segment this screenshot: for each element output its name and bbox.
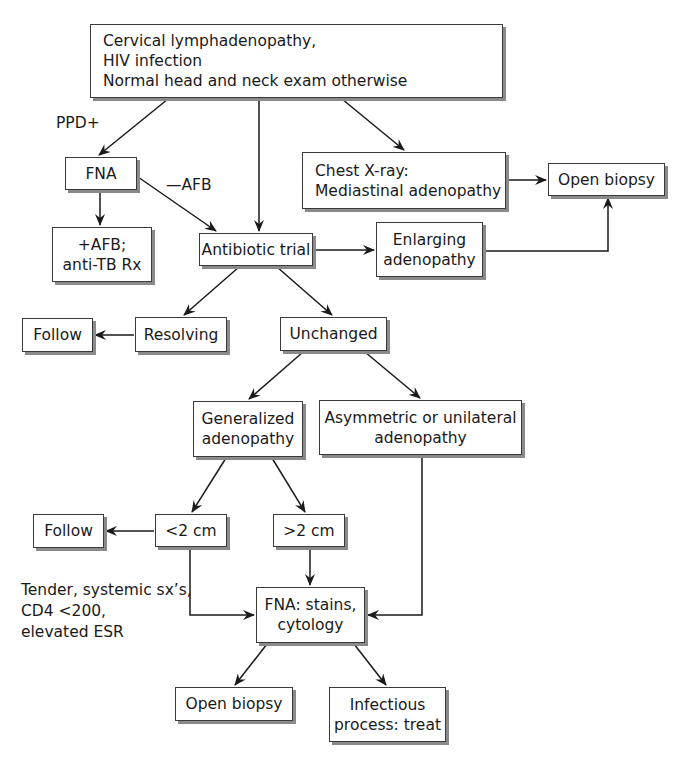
node-unchanged-label: Unchanged — [289, 324, 377, 344]
node-start-line-3: Normal head and neck exam otherwise — [103, 71, 407, 91]
edge-label-ppd-positive: PPD+ — [56, 113, 100, 134]
flowchart-canvas: Cervical lymphadenopathy, HIV infection … — [0, 0, 692, 762]
node-afb-positive-line-1: +AFB; — [63, 235, 142, 255]
node-antibiotic-trial-label: Antibiotic trial — [202, 240, 311, 260]
edge-generalized-to-gt2cm — [272, 458, 305, 512]
edge-fna-stains-to-infectious — [354, 644, 386, 685]
node-fna-stains-line-1: FNA: stains, — [265, 595, 357, 615]
node-less-than-2cm: <2 cm — [155, 514, 227, 547]
node-antibiotic-trial: Antibiotic trial — [199, 233, 313, 266]
node-chest-xray-line-1: Chest X-ray: — [315, 161, 501, 181]
node-generalized-line-1: Generalized — [202, 409, 295, 429]
edge-label-afb-negative: —AFB — [166, 175, 212, 196]
node-open-biopsy-bottom: Open biopsy — [175, 687, 293, 721]
flowchart-edges — [0, 0, 692, 762]
node-asymmetric-line-2: adenopathy — [324, 428, 516, 448]
edge-fna-stains-to-open-biopsy — [235, 644, 267, 685]
node-asymmetric-line-1: Asymmetric or unilateral — [324, 408, 516, 428]
node-generalized-line-2: adenopathy — [202, 429, 295, 449]
node-afb-positive-line-2: anti-TB Rx — [63, 255, 142, 275]
node-asymmetric-adenopathy: Asymmetric or unilateral adenopathy — [319, 400, 522, 455]
node-enlarging-adenopathy: Enlarging adenopathy — [376, 222, 483, 277]
node-infectious-line-2: process: treat — [334, 715, 441, 735]
criteria-line-1: Tender, systemic sx’s, — [21, 580, 192, 601]
node-enlarging-line-2: adenopathy — [383, 250, 476, 270]
edge-unchanged-to-asymmetric — [365, 352, 420, 398]
node-open-biopsy-top-label: Open biopsy — [558, 170, 655, 190]
edge-generalized-to-lt2cm — [192, 458, 226, 512]
edge-asymmetric-to-fna-stains — [368, 456, 422, 615]
node-lt2cm-label: <2 cm — [165, 521, 216, 541]
node-infectious-process: Infectious process: treat — [329, 687, 446, 742]
node-resolving-label: Resolving — [144, 325, 219, 345]
node-start-line-1: Cervical lymphadenopathy, — [103, 31, 407, 51]
node-infectious-line-1: Infectious — [334, 695, 441, 715]
edge-antibiotic-to-unchanged — [277, 267, 332, 315]
node-start: Cervical lymphadenopathy, HIV infection … — [90, 24, 503, 98]
node-fna: FNA — [65, 157, 137, 190]
criteria-line-3: elevated ESR — [21, 622, 192, 643]
node-start-line-2: HIV infection — [103, 51, 407, 71]
edge-unchanged-to-generalized — [249, 352, 303, 399]
node-gt2cm-label: >2 cm — [283, 521, 334, 541]
node-generalized-adenopathy: Generalized adenopathy — [193, 401, 303, 457]
edge-antibiotic-to-resolving — [184, 267, 239, 315]
node-fna-stains-line-2: cytology — [265, 615, 357, 635]
node-open-biopsy-bottom-label: Open biopsy — [185, 694, 282, 714]
node-follow-2-label: Follow — [44, 521, 93, 541]
edge-start-to-chest-xray — [342, 99, 404, 150]
edge-lt2cm-to-fna-stains — [190, 547, 254, 615]
node-chest-xray-line-2: Mediastinal adenopathy — [315, 181, 501, 201]
node-resolving: Resolving — [135, 317, 227, 352]
node-afb-positive: +AFB; anti-TB Rx — [52, 227, 152, 282]
node-open-biopsy-top: Open biopsy — [548, 163, 665, 196]
node-follow-1: Follow — [22, 318, 93, 352]
node-enlarging-line-1: Enlarging — [383, 230, 476, 250]
edge-label-criteria: Tender, systemic sx’s, CD4 <200, elevate… — [21, 580, 192, 643]
edge-start-to-fna — [99, 99, 168, 155]
criteria-line-2: CD4 <200, — [21, 601, 192, 622]
node-follow-1-label: Follow — [33, 325, 82, 345]
node-greater-than-2cm: >2 cm — [273, 514, 345, 547]
node-fna-label: FNA — [85, 164, 116, 184]
node-unchanged: Unchanged — [280, 317, 387, 351]
node-chest-xray: Chest X-ray: Mediastinal adenopathy — [302, 152, 506, 209]
node-fna-stains-cytology: FNA: stains, cytology — [256, 587, 365, 643]
node-follow-2: Follow — [33, 514, 104, 548]
